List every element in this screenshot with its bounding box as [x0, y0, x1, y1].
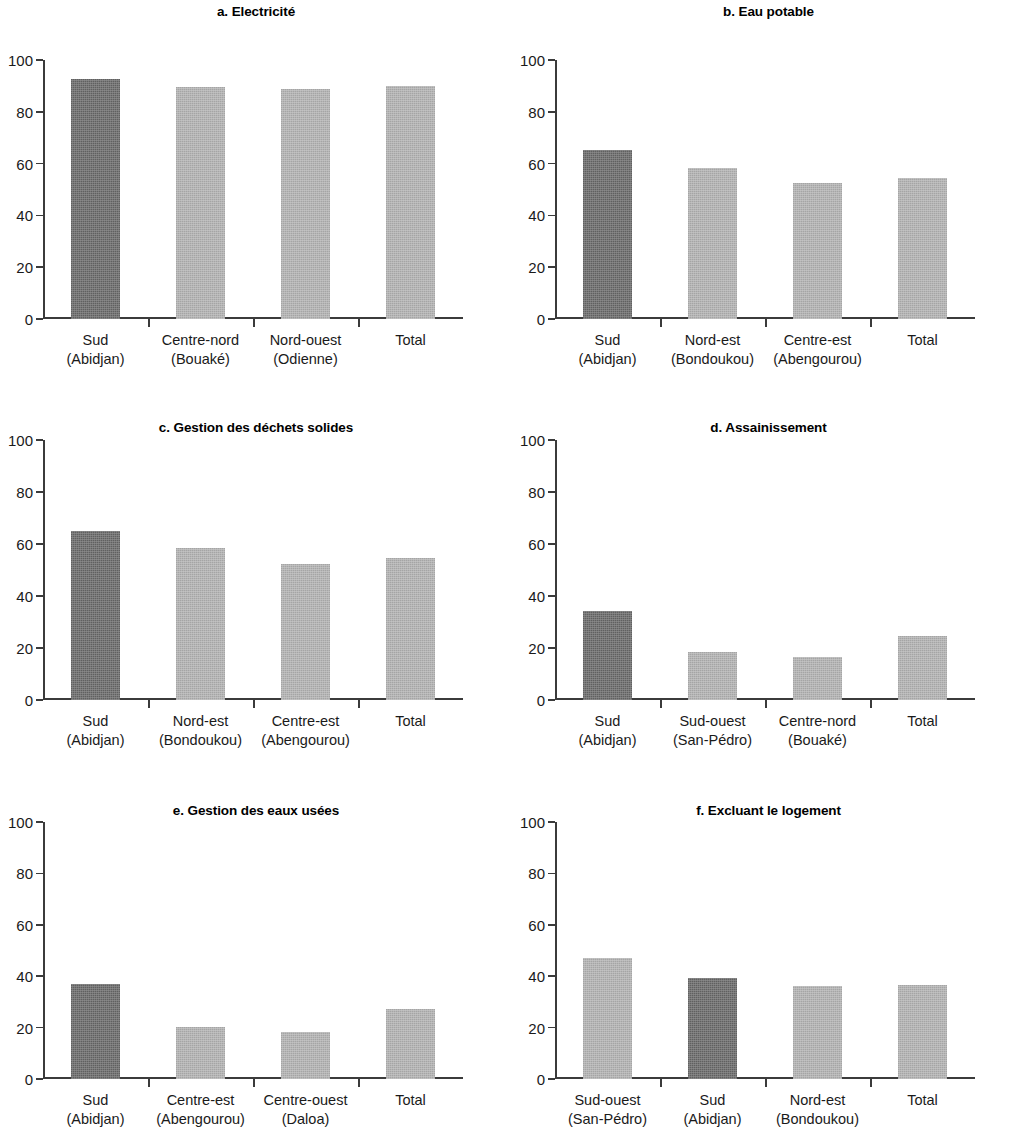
panel-title-b: b. Eau potable [512, 4, 1025, 20]
x-category-label-line1: Nord-est [173, 713, 229, 729]
x-category-label-line1: Centre-est [272, 713, 340, 729]
y-tick-mark [36, 215, 43, 217]
x-tick-mark [870, 1079, 872, 1087]
panel-e: e. Gestion des eaux usées020406080100Sud… [0, 785, 512, 1136]
y-tick-mark [36, 699, 43, 701]
y-tick-mark [36, 595, 43, 597]
y-axis-line [555, 440, 557, 700]
x-category-label-line2: (Abengourou) [773, 350, 862, 369]
x-category-label: Centre-nord(Bouaké) [779, 712, 856, 750]
x-category-label-line1: Total [907, 1092, 938, 1108]
x-tick-mark [765, 319, 767, 327]
y-axis-line [555, 60, 557, 319]
y-tick-label: 20 [16, 260, 33, 275]
x-tick-mark [148, 319, 150, 327]
x-category-label: Centre-est(Abengourou) [261, 712, 350, 750]
bar [281, 1032, 330, 1079]
y-axis-line [43, 440, 45, 700]
bar [688, 978, 737, 1079]
x-tick-mark [253, 319, 255, 327]
x-category-label: Centre-est(Abengourou) [773, 331, 862, 369]
x-category-label-line2: (Bouaké) [779, 731, 856, 750]
x-category-label-line1: Centre-est [784, 332, 852, 348]
x-category-label-line2: (Abidjan) [578, 350, 636, 369]
panel-b: b. Eau potable020406080100Sud(Abidjan)No… [512, 0, 1025, 400]
y-tick-label: 60 [16, 156, 33, 171]
x-category-label: Nord-est(Bondoukou) [159, 712, 242, 750]
x-category-label-line2: (San-Pédro) [673, 731, 752, 750]
x-category-label: Total [395, 331, 426, 350]
x-category-label-line1: Sud-ouest [679, 713, 745, 729]
x-category-label-line1: Centre-est [167, 1092, 235, 1108]
panel-title-a: a. Electricité [0, 4, 512, 20]
x-category-label-line2: (Bondoukou) [671, 350, 754, 369]
x-tick-mark [358, 319, 360, 327]
bar [386, 558, 435, 700]
y-tick-label: 80 [528, 866, 545, 881]
y-tick-mark [548, 924, 555, 926]
x-category-label: Total [395, 1091, 426, 1110]
y-tick-mark [548, 543, 555, 545]
bar [71, 984, 120, 1079]
y-axis-line [43, 60, 45, 319]
y-tick-label: 0 [537, 693, 545, 708]
y-tick-label: 80 [16, 104, 33, 119]
x-category-label: Sud(Abidjan) [578, 712, 636, 750]
x-category-label-line2: (Daloa) [264, 1110, 348, 1129]
x-tick-mark [660, 319, 662, 327]
y-tick-label: 100 [520, 53, 545, 68]
x-category-label: Total [907, 331, 938, 350]
x-category-label-line2: (Abidjan) [66, 1110, 124, 1129]
x-category-label: Sud(Abidjan) [578, 331, 636, 369]
y-tick-label: 40 [528, 208, 545, 223]
x-category-label-line2: (Odienne) [270, 350, 342, 369]
bar [583, 958, 632, 1079]
x-category-label: Centre-est(Abengourou) [156, 1091, 245, 1129]
bar [688, 168, 737, 319]
x-category-label-line2: (Abidjan) [66, 731, 124, 750]
y-tick-mark [548, 439, 555, 441]
y-tick-mark [36, 163, 43, 165]
y-tick-label: 80 [528, 485, 545, 500]
bar [583, 150, 632, 319]
bar [281, 564, 330, 701]
x-category-label-line1: Sud [595, 332, 621, 348]
y-tick-mark [548, 111, 555, 113]
x-category-label: Nord-est(Bondoukou) [671, 331, 754, 369]
x-category-label-line2: (Bondoukou) [776, 1110, 859, 1129]
x-tick-mark [660, 700, 662, 708]
y-tick-label: 60 [528, 917, 545, 932]
x-category-label: Total [907, 712, 938, 731]
panel-title-c: c. Gestion des déchets solides [0, 420, 512, 436]
x-tick-mark [660, 1079, 662, 1087]
y-tick-label: 0 [537, 312, 545, 327]
x-category-label-line1: Total [395, 713, 426, 729]
y-tick-mark [36, 266, 43, 268]
figure-panel-grid: a. Electricité020406080100Sud(Abidjan)Ce… [0, 0, 1025, 1136]
y-tick-label: 20 [528, 1020, 545, 1035]
y-tick-label: 0 [25, 312, 33, 327]
panel-title-d: d. Assainissement [512, 420, 1025, 436]
x-tick-mark [765, 700, 767, 708]
plot-area-d: 020406080100 [555, 440, 975, 700]
y-tick-mark [36, 318, 43, 320]
x-tick-mark [148, 1079, 150, 1087]
y-tick-label: 0 [25, 1072, 33, 1087]
x-category-label-line1: Centre-nord [162, 332, 239, 348]
y-tick-label: 60 [16, 917, 33, 932]
bar [386, 86, 435, 319]
panel-title-f: f. Excluant le logement [512, 803, 1025, 819]
y-tick-mark [548, 821, 555, 823]
plot-area-f: 020406080100 [555, 822, 975, 1079]
y-tick-label: 100 [8, 815, 33, 830]
y-tick-mark [36, 975, 43, 977]
bar [793, 986, 842, 1079]
y-tick-mark [36, 543, 43, 545]
x-category-label-line1: Centre-ouest [264, 1092, 348, 1108]
y-tick-mark [548, 163, 555, 165]
x-category-label: Sud(Abidjan) [683, 1091, 741, 1129]
y-tick-label: 60 [528, 156, 545, 171]
x-category-label-line1: Sud [700, 1092, 726, 1108]
y-tick-mark [36, 873, 43, 875]
y-tick-mark [548, 1078, 555, 1080]
